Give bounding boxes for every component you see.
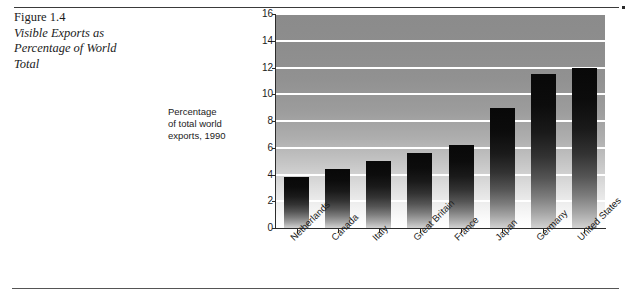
y-axis-tick-label: 12 xyxy=(247,62,273,73)
y-axis-tick-label: 10 xyxy=(247,88,273,99)
figure-number: Figure 1.4 xyxy=(14,10,194,26)
figure-title-line-2: Percentage of World xyxy=(14,41,194,57)
y-axis-tick-mark xyxy=(272,41,276,42)
y-axis-tick-label: 2 xyxy=(247,195,273,206)
gridline xyxy=(276,67,605,69)
y-axis-tick-label: 0 xyxy=(247,222,273,233)
figure-title-line-3: Total xyxy=(14,57,194,73)
y-axis-tick-mark xyxy=(272,175,276,176)
bar xyxy=(490,108,515,228)
y-axis-tick-mark xyxy=(272,14,276,15)
figure-caption: Figure 1.4 Visible Exports as Percentage… xyxy=(14,10,194,72)
y-axis-tick-mark xyxy=(272,148,276,149)
y-axis-tick-mark xyxy=(272,68,276,69)
y-axis-tick-label: 8 xyxy=(247,115,273,126)
gridline xyxy=(276,40,605,42)
y-axis-tick-label: 16 xyxy=(247,8,273,19)
y-axis-caption-line-3: exports, 1990 xyxy=(168,130,264,142)
bar-chart: 0246810121416 NetherlandsCanadaItalyGrea… xyxy=(276,14,605,228)
y-axis-tick-label: 4 xyxy=(247,169,273,180)
figure-title-line-1: Visible Exports as xyxy=(14,26,194,42)
page-top-rule-end-dot xyxy=(622,6,625,9)
y-axis-tick-mark xyxy=(272,121,276,122)
page-bottom-rule xyxy=(12,288,619,289)
y-axis-tick-label: 14 xyxy=(247,35,273,46)
bar xyxy=(366,161,391,228)
gridline xyxy=(276,13,605,15)
y-axis-tick-mark xyxy=(272,228,276,229)
bar xyxy=(572,68,597,229)
y-axis-tick-mark xyxy=(272,201,276,202)
bar xyxy=(531,74,556,228)
y-axis-tick-label: 6 xyxy=(247,142,273,153)
page-top-rule xyxy=(14,7,619,8)
y-axis-tick-mark xyxy=(272,94,276,95)
